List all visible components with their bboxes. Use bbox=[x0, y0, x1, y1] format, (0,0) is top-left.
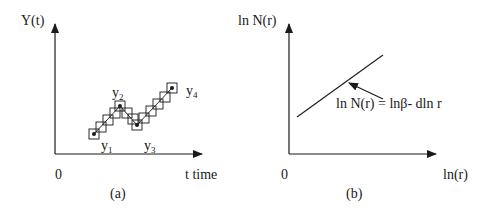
panel-a-y-axis-label: Y(t) bbox=[21, 14, 44, 28]
walk-points bbox=[92, 86, 174, 136]
point-label-y1: y1 bbox=[101, 139, 113, 155]
panel-b-y-axis-label: ln N(r) bbox=[238, 14, 277, 28]
panel-b-caption: (b) bbox=[346, 187, 362, 201]
point-label-y3: y3 bbox=[144, 139, 156, 155]
point-label-y2: y2 bbox=[112, 86, 124, 102]
panel-a-origin-label: 0 bbox=[55, 168, 62, 182]
panel-b-x-axis-label: ln(r) bbox=[443, 168, 468, 182]
box-covering-path bbox=[89, 83, 177, 139]
equation-label: ln N(r) = lnβ- dln r bbox=[336, 97, 442, 111]
panel-a-x-axis-label: t time bbox=[185, 168, 217, 182]
point-label-y4: y4 bbox=[186, 84, 198, 100]
panel-b-origin-label: 0 bbox=[281, 168, 288, 182]
panel-a-caption: (a) bbox=[110, 187, 126, 201]
panel-a-axes bbox=[55, 24, 202, 154]
